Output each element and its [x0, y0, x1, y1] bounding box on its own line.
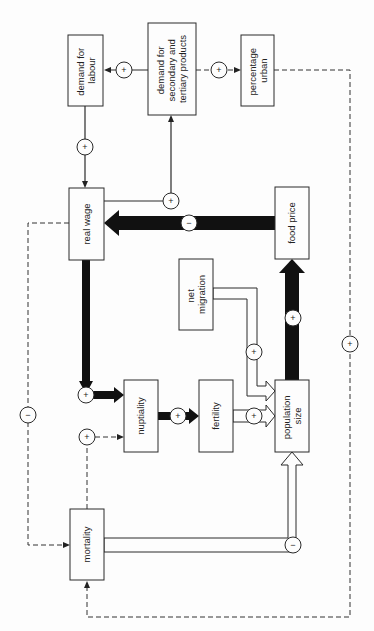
node-nuptiality: nuptiality — [124, 380, 158, 452]
svg-text:mortality: mortality — [81, 526, 92, 562]
svg-text:demand for secondary and: demand for secondary and tertiary produc… — [155, 35, 188, 103]
svg-text:+: + — [290, 313, 295, 323]
svg-text:nuptiality: nuptiality — [135, 397, 146, 435]
node-percentage-urban: percentage urban — [241, 35, 274, 106]
node-population-size: population size — [275, 380, 309, 452]
sign-realwage-nuptiality: + — [78, 387, 94, 403]
node-food-price: food price — [275, 187, 309, 259]
svg-text:+: + — [83, 390, 88, 400]
edge-mortality-to-nuptiality — [87, 434, 124, 509]
sign-realwage-mortality: − — [20, 407, 36, 423]
sign-realwage-products: + — [163, 193, 179, 209]
svg-text:+: + — [251, 411, 256, 421]
sign-products-urban: + — [211, 62, 227, 78]
svg-text:−: − — [290, 540, 295, 550]
node-mortality: mortality — [70, 509, 104, 580]
sign-products-labour: + — [116, 62, 132, 78]
sign-mortality-nuptiality: + — [79, 429, 95, 445]
svg-text:+: + — [121, 65, 126, 75]
sign-urban-mortality: + — [342, 336, 358, 352]
edge-realwage-to-nuptiality — [79, 260, 124, 403]
svg-text:fertility: fertility — [210, 402, 221, 430]
svg-text:+: + — [84, 432, 89, 442]
node-demand-for-labour: demand for labour — [68, 35, 103, 106]
svg-text:+: + — [175, 411, 180, 421]
sign-mortality-population: − — [285, 537, 301, 553]
node-net-migration: net migration — [179, 259, 213, 330]
svg-text:+: + — [82, 142, 87, 152]
node-demand-for-products: demand for secondary and tertiary produc… — [148, 23, 196, 115]
svg-text:−: − — [25, 410, 30, 420]
sign-foodprice-realwage: − — [181, 215, 197, 231]
svg-text:+: + — [168, 196, 173, 206]
edge-urban-to-mortality — [84, 70, 350, 617]
sign-migration-population: + — [246, 344, 262, 360]
svg-text:food price: food price — [286, 202, 297, 244]
causal-diagram: demand for labour demand for secondary a… — [0, 0, 374, 631]
sign-nuptiality-fertility: + — [170, 408, 186, 424]
svg-text:−: − — [186, 218, 191, 228]
sign-fertility-population: + — [246, 408, 262, 424]
edge-mortality-to-population — [104, 452, 303, 552]
edge-realwage-to-products — [104, 115, 174, 201]
sign-population-foodprice: + — [285, 310, 301, 326]
svg-text:+: + — [347, 339, 352, 349]
svg-text:+: + — [251, 347, 256, 357]
svg-text:real wage: real wage — [81, 203, 92, 244]
svg-text:+: + — [216, 65, 221, 75]
edge-realwage-to-mortality — [28, 223, 70, 548]
sign-labour-realwage: + — [77, 139, 93, 155]
node-real-wage: real wage — [69, 188, 104, 260]
node-fertility: fertility — [199, 380, 233, 452]
